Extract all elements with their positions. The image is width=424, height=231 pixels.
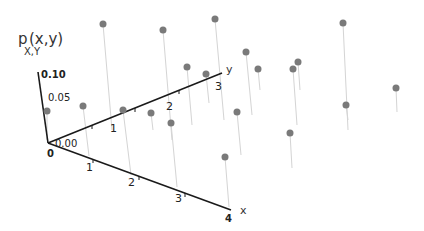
data-point-marker (295, 59, 302, 66)
stem-line (215, 19, 224, 120)
x-tick-0: 0 (47, 148, 54, 159)
data-point-marker (148, 110, 155, 117)
stem-line (293, 69, 297, 125)
stem-line (237, 112, 241, 155)
x-tick-2: 2 (128, 176, 135, 189)
data-point-marker (290, 66, 297, 73)
y-axis-label: y (226, 63, 233, 76)
data-point-marker (100, 21, 107, 28)
data-point-marker (234, 109, 241, 116)
z-tick-0.00: 0.00 (55, 138, 77, 149)
data-point-marker (222, 154, 229, 161)
stem-line (171, 123, 177, 187)
y-tick-3: 3 (215, 80, 222, 93)
z-axis-label-suffix: (x,y) (29, 30, 63, 48)
y-tick-1: 1 (110, 122, 117, 135)
stem-line (103, 24, 112, 130)
data-point-marker (120, 107, 127, 114)
stem-line (83, 106, 89, 156)
data-point-marker (184, 64, 191, 71)
x-tick-4: 4 (225, 213, 232, 224)
data-point-marker (393, 85, 400, 92)
data-point-marker (255, 66, 262, 73)
data-point-marker (203, 71, 210, 78)
stem-line (246, 52, 252, 115)
x-tick-1: 1 (86, 161, 93, 174)
data-point-marker (168, 120, 175, 127)
data-point-marker (287, 130, 294, 137)
y-tick-2: 2 (166, 100, 173, 113)
z-tick-0.05: 0.05 (48, 92, 70, 103)
z-tick-0.10: 0.10 (41, 69, 66, 80)
stem-line (396, 88, 397, 112)
x-axis-label: x (240, 204, 247, 217)
stem-line (123, 110, 131, 175)
z-axis (38, 72, 48, 143)
stem-line (187, 67, 192, 125)
data-point-marker (44, 108, 51, 115)
stem-plot-3d: p X,Y (x,y) 0.10 0.05 0.00 0 1 2 3 4 x 1… (0, 0, 424, 231)
stem-line (225, 157, 229, 207)
x-tick-3: 3 (175, 192, 182, 205)
data-point-marker (160, 27, 167, 34)
data-point-marker (243, 49, 250, 56)
stems-layer (47, 19, 397, 207)
data-point-marker (80, 103, 87, 110)
data-point-marker (212, 16, 219, 23)
stem-line (290, 133, 292, 168)
data-point-marker (343, 102, 350, 109)
axes-layer: p X,Y (x,y) 0.10 0.05 0.00 0 1 2 3 4 x 1… (18, 30, 247, 224)
stem-line (298, 62, 300, 90)
chart-canvas: p X,Y (x,y) 0.10 0.05 0.00 0 1 2 3 4 x 1… (0, 0, 424, 231)
data-point-marker (340, 20, 347, 27)
